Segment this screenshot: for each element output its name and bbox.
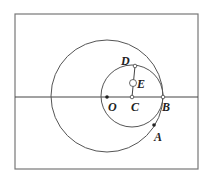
- geometry-figure: O C B D E A: [0, 0, 213, 184]
- point-b: [161, 95, 165, 99]
- label-o: O: [108, 100, 117, 114]
- point-d: [133, 64, 137, 68]
- label-d: D: [120, 54, 130, 68]
- label-b: B: [161, 100, 170, 114]
- point-c: [130, 95, 134, 99]
- label-e: E: [136, 77, 145, 91]
- point-e: [130, 80, 137, 87]
- label-a: A: [153, 130, 162, 144]
- point-a: [152, 123, 156, 127]
- label-c: C: [131, 100, 140, 114]
- frame-border: [15, 14, 198, 169]
- point-o: [105, 95, 109, 99]
